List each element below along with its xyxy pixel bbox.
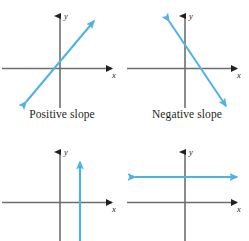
caption-positive-slope: Positive slope — [0, 108, 124, 120]
y-axis-label: y — [63, 11, 68, 21]
positive-slope-graph: y x — [0, 4, 124, 112]
caption-negative-slope: Negative slope — [125, 108, 249, 120]
y-axis-label: y — [188, 147, 193, 157]
panel-undefined-slope: y x — [0, 140, 124, 241]
y-axis-label: y — [188, 11, 193, 21]
undefined-slope-graph: y x — [0, 140, 124, 241]
negative-slope-graph: y x — [125, 4, 249, 112]
negative-slope-line — [169, 21, 226, 106]
x-axis-label: x — [111, 204, 116, 214]
panel-negative-slope: y x Negative slope — [125, 4, 249, 112]
panel-zero-slope: y x — [125, 140, 249, 241]
x-axis-label: x — [236, 204, 241, 214]
zero-slope-graph: y x — [125, 140, 249, 241]
x-axis-label: x — [236, 70, 241, 80]
panel-positive-slope: y x Positive slope — [0, 4, 124, 112]
x-axis-label: x — [111, 70, 116, 80]
slope-figure: y x Positive slope — [0, 0, 249, 241]
y-axis-label: y — [63, 147, 68, 157]
